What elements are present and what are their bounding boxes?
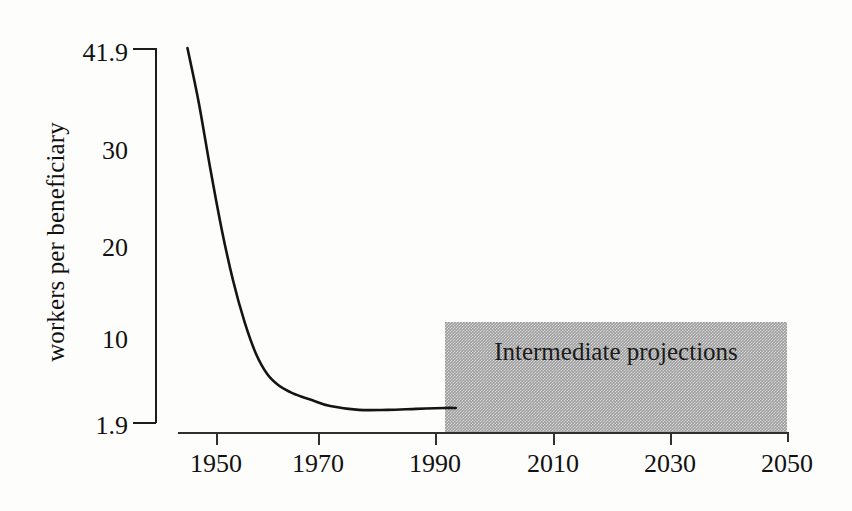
y-tick-label-1.9: 1.9	[96, 413, 129, 439]
x-axis-tick-1950	[216, 433, 218, 445]
x-tick-label-2010: 2010	[503, 450, 603, 478]
x-tick-label-2030: 2030	[620, 450, 720, 478]
x-tick-label-1970: 1970	[268, 450, 368, 478]
y-tick-label-41.9: 41.9	[83, 40, 129, 66]
workers-per-beneficiary-curve	[187, 48, 455, 410]
chart-container: workers per beneficiary 41.9 30 20 10 1.…	[0, 0, 852, 511]
y-axis-tick-top	[133, 48, 156, 50]
x-axis-tick-2030	[670, 433, 672, 445]
x-tick-label-1950: 1950	[166, 450, 266, 478]
y-axis-title: workers per beneficiary	[42, 82, 70, 402]
x-axis-tick-1990	[435, 433, 437, 445]
x-tick-label-1990: 1990	[385, 450, 485, 478]
x-axis-tick-2010	[553, 433, 555, 445]
x-axis-tick-1970	[318, 433, 320, 445]
x-axis-endcap-right	[787, 432, 789, 442]
y-tick-label-10: 10	[102, 327, 128, 353]
intermediate-projections-band: Intermediate projections	[445, 322, 787, 432]
y-axis-line	[155, 48, 157, 423]
y-tick-label-30: 30	[102, 138, 128, 164]
x-axis-line	[178, 432, 788, 434]
y-axis-tick-bottom	[133, 422, 156, 424]
intermediate-projections-label: Intermediate projections	[445, 338, 787, 366]
x-tick-label-2050: 2050	[737, 450, 837, 478]
y-tick-label-20: 20	[102, 235, 128, 261]
